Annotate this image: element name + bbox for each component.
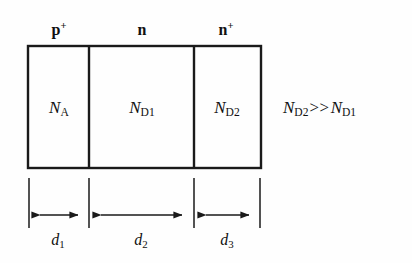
dimension-label-d1: d1 <box>51 232 64 248</box>
diagram-canvas <box>0 0 412 263</box>
dimension-label-d2: d2 <box>134 232 147 248</box>
region-label-p-plus: p+ <box>52 22 67 38</box>
doping-label-nd2: ND2 <box>214 99 240 116</box>
doping-label-na: NA <box>49 99 69 116</box>
dimension-label-d3: d3 <box>220 232 233 248</box>
region-label-n: n <box>138 22 147 38</box>
inequality-operator: >> <box>308 98 330 117</box>
semiconductor-structure-figure: p+ n n+ NA ND1 ND2 ND2>>ND1 d1 d2 d3 <box>0 0 412 263</box>
region-label-n-plus: n+ <box>219 22 234 38</box>
inequality-annotation: ND2>>ND1 <box>283 99 356 116</box>
doping-label-nd1: ND1 <box>129 99 155 116</box>
